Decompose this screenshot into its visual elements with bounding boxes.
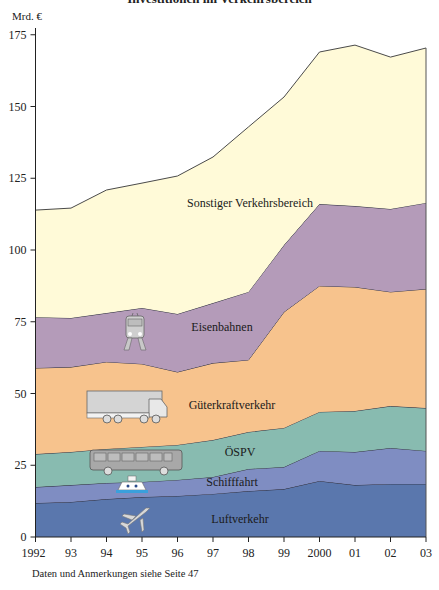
series-label: Schifffahrt [206,475,258,489]
series-label: Sonstiger Verkehrsbereich [187,196,313,210]
x-tick-label: 01 [349,546,361,560]
y-tick-label: 125 [9,171,27,185]
y-tick-label: 25 [15,458,27,472]
x-tick-label: 95 [136,546,148,560]
x-tick-label: 02 [385,546,397,560]
y-tick-label: 100 [9,243,27,257]
x-tick-label: 03 [420,546,432,560]
series-label: ÖSPV [225,445,256,459]
series-label: Eisenbahnen [191,320,252,334]
y-tick-label: 75 [15,315,27,329]
x-tick-label: 96 [172,546,184,560]
x-tick-label: 98 [243,546,255,560]
x-tick-label: 1992 [22,546,46,560]
x-tick-label: 93 [65,546,77,560]
stacked-area-chart: Sonstiger VerkehrsbereichEisenbahnenGüte… [0,0,439,590]
series-label: Güterkraftverkehr [189,398,276,412]
y-tick-label: 0 [21,530,27,544]
footnote: Daten und Anmerkungen siehe Seite 47 [32,568,199,579]
y-tick-label: 175 [9,28,27,42]
x-tick-label: 97 [207,546,219,560]
y-tick-label: 150 [9,100,27,114]
y-tick-label: 50 [15,387,27,401]
truck-icon [87,391,167,423]
x-tick-label: 99 [278,546,290,560]
series-label: Luftverkehr [211,512,268,526]
x-tick-label: 94 [101,546,113,560]
x-tick-label: 2000 [308,546,332,560]
